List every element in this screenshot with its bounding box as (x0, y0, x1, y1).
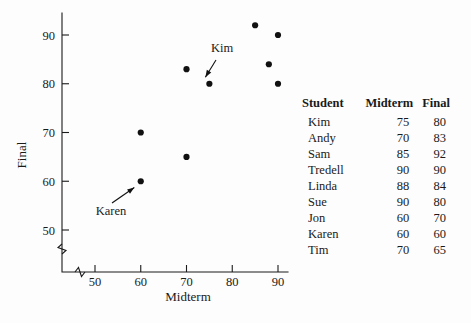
data-point (206, 81, 212, 87)
axes (58, 13, 288, 277)
cell-student: Sam (300, 146, 354, 162)
column-header-student: Student (300, 96, 354, 114)
x-axis-title: Midterm (165, 289, 211, 304)
y-tick-label: 60 (43, 175, 56, 189)
table-row: Andy7083 (300, 130, 452, 146)
cell-student: Andy (300, 130, 354, 146)
x-tick-label: 50 (89, 275, 102, 289)
table-row: Sam8592 (300, 146, 452, 162)
annotation-arrow-head (127, 188, 134, 194)
x-tick-label: 90 (272, 275, 285, 289)
cell-midterm: 75 (354, 114, 415, 130)
cell-midterm: 85 (354, 146, 415, 162)
axis-lines (62, 13, 288, 272)
student-scores-table: Student Midterm Final Kim7580Andy7083Sam… (300, 96, 452, 258)
cell-midterm: 60 (354, 210, 415, 226)
cell-student: Jon (300, 210, 354, 226)
cell-final: 80 (415, 114, 452, 130)
axis-ticks (62, 35, 278, 272)
y-tick-label: 80 (43, 77, 56, 91)
cell-midterm: 70 (354, 130, 415, 146)
data-point (252, 22, 258, 28)
cell-student: Kim (300, 114, 354, 130)
cell-final: 65 (415, 242, 452, 258)
y-tick-label: 70 (43, 126, 56, 140)
axis-tick-labels: 50607080905060708090 (43, 29, 285, 290)
annotation-text: Karen (96, 204, 127, 218)
data-point (183, 154, 189, 160)
table-row: Tim7065 (300, 242, 452, 258)
data-point (138, 129, 144, 135)
table-row: Kim7580 (300, 114, 452, 130)
x-tick-label: 60 (135, 275, 148, 289)
cell-student: Karen (300, 226, 354, 242)
cell-midterm: 70 (354, 242, 415, 258)
cell-final: 60 (415, 226, 452, 242)
data-point (183, 66, 189, 72)
table-row: Sue9080 (300, 194, 452, 210)
cell-student: Tredell (300, 162, 354, 178)
data-points (138, 22, 281, 184)
y-tick-label: 50 (43, 224, 56, 238)
cell-final: 92 (415, 146, 452, 162)
x-tick-label: 70 (180, 275, 193, 289)
annotation-text: Kim (211, 41, 234, 55)
cell-final: 70 (415, 210, 452, 226)
cell-student: Linda (300, 178, 354, 194)
cell-final: 84 (415, 178, 452, 194)
cell-midterm: 90 (354, 162, 415, 178)
table-row: Tredell9090 (300, 162, 452, 178)
cell-midterm: 88 (354, 178, 415, 194)
table-row: Linda8884 (300, 178, 452, 194)
annotation-arrow-head (205, 70, 211, 77)
cell-midterm: 90 (354, 194, 415, 210)
cell-final: 83 (415, 130, 452, 146)
y-tick-label: 90 (43, 29, 56, 43)
cell-midterm: 60 (354, 226, 415, 242)
column-header-final: Final (415, 96, 452, 114)
scatterplot-figure: 50607080905060708090 KimKaren Midterm Fi… (0, 0, 471, 323)
table-row: Jon6070 (300, 210, 452, 226)
data-point (266, 61, 272, 67)
table-header-row: Student Midterm Final (300, 96, 452, 114)
cell-final: 90 (415, 162, 452, 178)
data-point (275, 32, 281, 38)
data-point (275, 81, 281, 87)
cell-student: Tim (300, 242, 354, 258)
table-row: Karen6060 (300, 226, 452, 242)
data-point (138, 178, 144, 184)
x-tick-label: 80 (226, 275, 239, 289)
y-axis-title: Final (14, 141, 29, 168)
point-annotations: KimKaren (96, 41, 234, 218)
column-header-midterm: Midterm (354, 96, 415, 114)
cell-final: 80 (415, 194, 452, 210)
cell-student: Sue (300, 194, 354, 210)
